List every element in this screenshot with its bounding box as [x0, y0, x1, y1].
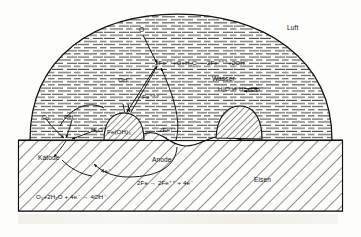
water-droplet — [30, 14, 332, 140]
species-label-rust: Fe(OH)₃ — [107, 129, 131, 135]
electrode-label-anode: Anode — [152, 157, 172, 164]
equation-cathodic: O₂+2H₂O + 4e⁻ → 4OH⁻ — [36, 194, 107, 200]
species-label-oxygen: O — [139, 27, 144, 34]
equation-anodic: 2Fe → 2Fe⁺⁺ + 4e⁻ — [137, 180, 193, 186]
species-label-oxygen-left: O₂ — [42, 114, 49, 120]
figure-canvas: Luft Wasser Eisen O OH⁻ Fe⁺⁺⁺ O₂ OH⁻ H₂O… — [0, 0, 361, 237]
electrode-label-cathode: Katode — [38, 155, 60, 162]
species-label-hydroxide-left: OH⁻ — [64, 114, 77, 120]
species-label-ferric: Fe⁺⁺⁺ — [142, 94, 160, 100]
species-label-ferrous: 2Fe⁺⁺ — [159, 127, 177, 133]
species-label-electrons: 4e⁻ — [101, 168, 111, 174]
region-label-water: Wasser — [212, 76, 235, 83]
equation-ferric-formation: 2Fe⁺⁺+O+H₂O → 2Fe⁺⁺⁺+2OH⁻ — [155, 60, 248, 66]
equation-water-dissociation: H₂O ⇌ H⁺+OH⁻ — [218, 86, 263, 92]
species-label-hydroxide-mid: OH⁻ — [118, 77, 131, 83]
region-label-air: Luft — [287, 25, 298, 32]
corrosion-diagram-svg — [0, 0, 361, 237]
species-label-water-left: H₂O — [91, 127, 103, 133]
region-label-iron: Eisen — [254, 177, 271, 184]
